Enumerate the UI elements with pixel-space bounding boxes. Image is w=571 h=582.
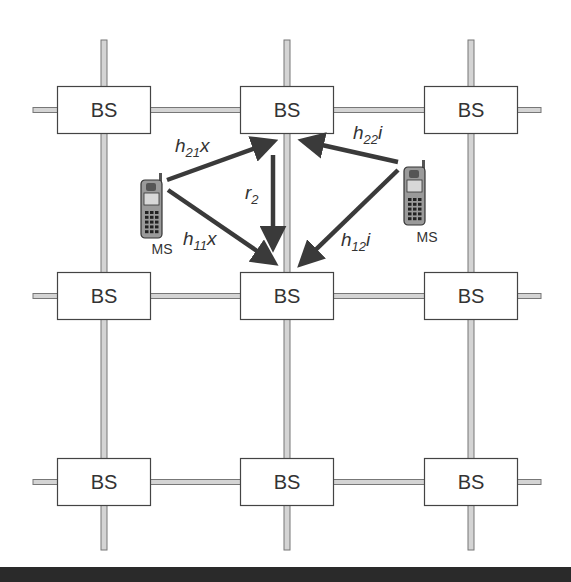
mobile-phone-icon — [141, 173, 162, 238]
base-station-label: BS — [274, 99, 301, 121]
label-base: h — [183, 228, 194, 249]
label-variable: i — [378, 122, 383, 143]
label-base: h — [353, 122, 364, 143]
base-station-0-0: BS — [58, 87, 151, 134]
mobile-station-ms-left: MS — [141, 173, 173, 257]
label-h21x: h21x — [175, 135, 211, 160]
base-station-label: BS — [91, 99, 118, 121]
base-station-2-2: BS — [425, 459, 518, 506]
base-station-0-1: BS — [241, 87, 334, 134]
arrow-h22i — [304, 141, 398, 162]
base-station-1-2: BS — [425, 273, 518, 320]
base-station-2-1: BS — [241, 459, 334, 506]
label-r2: r2 — [245, 182, 259, 207]
label-h22i: h22i — [353, 122, 383, 147]
base-station-label: BS — [91, 471, 118, 493]
label-h11x: h11x — [183, 228, 218, 253]
base-station-0-2: BS — [425, 87, 518, 134]
label-variable: x — [199, 135, 211, 156]
label-subscript: 2 — [250, 192, 259, 207]
label-subscript: 22 — [363, 132, 379, 147]
base-station-label: BS — [274, 285, 301, 307]
mobile-station-ms-right: MS — [404, 160, 438, 245]
link-labels: h21xh11xr2h22ih12i — [175, 122, 383, 254]
label-base: h — [175, 135, 186, 156]
label-subscript: 21 — [185, 145, 200, 160]
cellular-network-diagram: BSBSBSBSBSBSBSBSBS MSMS h21xh11xr2h22ih1… — [0, 0, 571, 567]
bottom-bar — [0, 567, 571, 582]
label-variable: i — [366, 229, 371, 250]
label-h12i: h12i — [341, 229, 371, 254]
base-station-label: BS — [274, 471, 301, 493]
mobile-phone-icon — [404, 160, 425, 225]
base-station-label: BS — [458, 471, 485, 493]
base-station-1-0: BS — [58, 273, 151, 320]
label-subscript: 11 — [194, 238, 208, 253]
mobile-station-label: MS — [152, 241, 173, 257]
base-station-1-1: BS — [241, 273, 334, 320]
base-station-label: BS — [458, 285, 485, 307]
base-station-2-0: BS — [58, 459, 151, 506]
base-station-label: BS — [458, 99, 485, 121]
label-base: h — [341, 229, 352, 250]
label-variable: x — [206, 228, 218, 249]
label-subscript: 12 — [352, 239, 367, 254]
mobile-station-label: MS — [417, 229, 438, 245]
base-station-label: BS — [91, 285, 118, 307]
